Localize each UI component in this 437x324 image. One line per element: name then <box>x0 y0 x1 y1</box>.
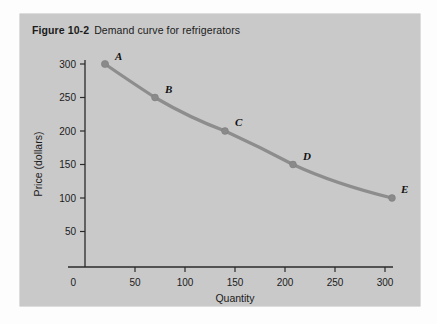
x-axis-title: Quantity <box>215 292 255 304</box>
data-point-label-C: C <box>235 116 243 128</box>
y-axis-title: Price (dollars) <box>32 132 44 197</box>
y-tick-label-0: 0 <box>70 277 76 288</box>
y-tick-label-50: 50 <box>65 226 77 237</box>
x-tick-label-150: 150 <box>227 277 244 288</box>
data-point-label-A: A <box>114 50 122 62</box>
y-tick-label-300: 300 <box>59 59 76 70</box>
figure-container: Figure 10-2Demand curve for refrigerator… <box>0 0 437 324</box>
data-point-label-E: E <box>400 183 408 195</box>
data-point-label-D: D <box>302 150 311 162</box>
y-axis-ticks: 300 250 200 150 100 50 0 <box>59 59 85 289</box>
data-point-markers <box>101 60 395 201</box>
x-tick-label-300: 300 <box>377 277 394 288</box>
data-point-B <box>152 94 159 101</box>
x-tick-label-200: 200 <box>277 277 294 288</box>
data-point-D <box>290 161 297 168</box>
demand-curve-chart: 300 250 200 150 100 50 0 50 <box>20 14 420 306</box>
x-tick-label-100: 100 <box>177 277 194 288</box>
y-tick-label-100: 100 <box>59 193 76 204</box>
y-tick-label-200: 200 <box>59 126 76 137</box>
chart-plot-area: 300 250 200 150 100 50 0 50 <box>20 14 420 306</box>
data-point-label-B: B <box>164 83 172 95</box>
demand-curve-path <box>105 64 392 198</box>
data-point-A <box>101 60 108 67</box>
y-tick-label-150: 150 <box>59 159 76 170</box>
data-point-E <box>389 195 396 202</box>
figure-panel: Figure 10-2Demand curve for refrigerator… <box>20 14 420 306</box>
x-tick-label-50: 50 <box>129 277 141 288</box>
y-tick-label-250: 250 <box>59 92 76 103</box>
x-axis-ticks: 50 100 150 200 250 300 <box>129 267 393 288</box>
x-tick-label-250: 250 <box>327 277 344 288</box>
data-point-labels: A B C D E <box>114 50 408 195</box>
data-point-C <box>222 128 229 135</box>
